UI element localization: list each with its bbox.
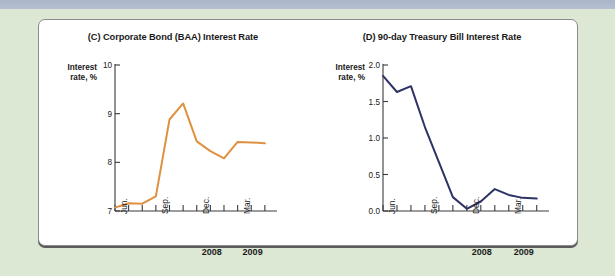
y-tick-label: 0.0 bbox=[369, 207, 383, 216]
year-label: 2009 bbox=[243, 247, 263, 257]
data-line-series bbox=[383, 76, 537, 209]
chart-c-corporate-bond: (C) Corporate Bond (BAA) Interest Rate I… bbox=[39, 20, 307, 245]
chart-d-treasury-bill: (D) 90-day Treasury Bill Interest Rate I… bbox=[307, 20, 577, 245]
x-tick-label: Jun. bbox=[387, 198, 397, 214]
year-label: 2008 bbox=[472, 247, 492, 257]
chart-c-y-axis-label: Interest rate, % bbox=[41, 63, 97, 83]
x-tick-label: Sep. bbox=[429, 197, 439, 214]
y-tick-label: 0.5 bbox=[369, 170, 383, 179]
y-tick-label: 2.0 bbox=[369, 61, 383, 70]
year-label: 2009 bbox=[514, 247, 534, 257]
x-tick-label: Dec. bbox=[471, 197, 481, 214]
chart-c-svg bbox=[115, 65, 281, 223]
y-tick-label: 8 bbox=[107, 158, 115, 167]
chart-d-y-axis-label: Interest rate, % bbox=[309, 63, 365, 83]
x-tick-label: Mar. bbox=[242, 198, 252, 214]
top-decoration-bar bbox=[0, 0, 615, 9]
chart-c-title: (C) Corporate Bond (BAA) Interest Rate bbox=[39, 32, 307, 42]
y-tick-label: 1.0 bbox=[369, 134, 383, 143]
y-tick-label: 10 bbox=[103, 61, 115, 70]
x-tick-label: Jun. bbox=[119, 198, 129, 214]
x-tick-label: Dec. bbox=[201, 197, 211, 214]
x-tick-label: Mar. bbox=[513, 198, 523, 214]
y-tick-label: 1.5 bbox=[369, 97, 383, 106]
chart-d-svg bbox=[383, 65, 553, 223]
y-tick-label: 9 bbox=[107, 109, 115, 118]
year-label: 2008 bbox=[202, 247, 222, 257]
x-tick-label: Sep. bbox=[160, 197, 170, 214]
y-tick-label: 7 bbox=[107, 207, 115, 216]
figure-panel: (C) Corporate Bond (BAA) Interest Rate I… bbox=[38, 19, 578, 246]
data-line-series bbox=[115, 103, 265, 207]
chart-d-title: (D) 90-day Treasury Bill Interest Rate bbox=[307, 32, 577, 42]
chart-d-plot-area: 0.00.51.01.52.0Jun.Sep.Dec.Mar.20082009 bbox=[383, 65, 543, 211]
chart-c-plot-area: 78910Jun.Sep.Dec.Mar.20082009 bbox=[115, 65, 271, 211]
